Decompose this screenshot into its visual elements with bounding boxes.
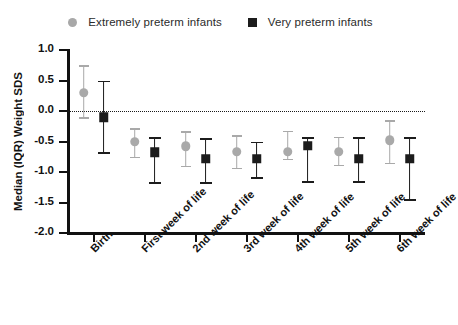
y-tick-label: -2.0: [8, 225, 54, 237]
y-tick-label: 0.0: [8, 103, 54, 115]
error-bar-cap-lower: [130, 157, 140, 159]
y-tick-label: 0.5: [8, 73, 54, 85]
error-bar-cap-upper: [79, 65, 89, 67]
error-bar-cap-lower: [98, 152, 110, 154]
error-bar-cap-lower: [181, 166, 191, 168]
error-bar-cap-upper: [404, 137, 416, 139]
median-marker: [385, 136, 395, 146]
median-marker: [334, 147, 344, 157]
error-bar-cap-lower: [251, 177, 263, 179]
y-tick-mark: [59, 232, 68, 234]
error-bar-cap-upper: [232, 135, 242, 137]
error-bar-cap-upper: [200, 138, 212, 140]
y-tick-mark: [59, 49, 68, 51]
error-bar-cap-lower: [200, 182, 212, 184]
error-bar-cap-upper: [130, 128, 140, 130]
error-bar-cap-upper: [251, 142, 263, 144]
y-tick-label: -0.5: [8, 134, 54, 146]
y-tick-label: -1.0: [8, 164, 54, 176]
median-marker: [232, 147, 242, 157]
legend-label-extremely-preterm: Extremely preterm infants: [88, 16, 222, 28]
median-marker: [201, 154, 211, 164]
y-tick-label: -1.5: [8, 195, 54, 207]
error-bar-line: [409, 137, 411, 199]
median-marker: [99, 112, 109, 122]
y-tick-mark: [59, 202, 68, 204]
legend-square-marker-icon: [248, 18, 257, 27]
error-bar-cap-lower: [149, 182, 161, 184]
median-marker: [303, 141, 313, 151]
error-bar-cap-upper: [98, 81, 110, 83]
legend-circle-marker-icon: [68, 18, 77, 27]
error-bar-line: [154, 137, 156, 182]
error-bar-cap-lower: [232, 168, 242, 170]
chart-legend: Extremely preterm infants Very preterm i…: [0, 12, 441, 32]
median-marker: [405, 154, 415, 164]
error-bar-cap-lower: [353, 181, 365, 183]
error-bar-cap-lower: [79, 117, 89, 119]
median-marker: [150, 148, 160, 158]
legend-item-very-preterm: Very preterm infants: [248, 16, 373, 28]
error-bar-cap-lower: [283, 159, 293, 161]
error-bar-cap-upper: [302, 137, 314, 139]
median-marker: [181, 142, 191, 152]
y-tick-mark: [59, 110, 68, 112]
y-tick-mark: [59, 141, 68, 143]
median-marker: [79, 88, 89, 98]
error-bar-cap-lower: [385, 163, 395, 165]
legend-label-very-preterm: Very preterm infants: [268, 16, 373, 28]
y-tick-mark: [59, 80, 68, 82]
median-marker: [130, 137, 140, 147]
error-bar-cap-upper: [181, 131, 191, 133]
error-bar-cap-upper: [149, 137, 161, 139]
error-bar-cap-upper: [353, 137, 365, 139]
legend-item-extremely-preterm: Extremely preterm infants: [68, 16, 222, 28]
error-bar-cap-lower: [302, 181, 314, 183]
error-bar-cap-upper: [283, 131, 293, 133]
error-bar-cap-upper: [334, 137, 344, 139]
error-bar-cap-lower: [334, 165, 344, 167]
median-marker: [283, 147, 293, 157]
y-tick-label: 1.0: [8, 42, 54, 54]
y-tick-mark: [59, 171, 68, 173]
median-marker: [354, 154, 364, 164]
median-marker: [252, 154, 262, 164]
error-bar-cap-upper: [385, 120, 395, 122]
